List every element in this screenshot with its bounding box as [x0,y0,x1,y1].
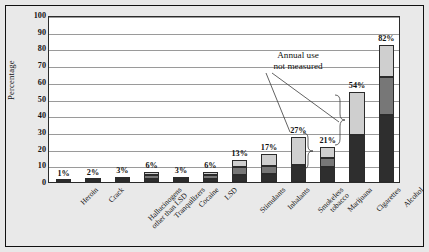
bar-segment [173,177,188,179]
bar-segment [232,175,247,183]
bar[interactable]: 17% [261,16,276,182]
chart-figure: Percentage Tenth-graders 1%2%3%6%3%6%13%… [0,0,429,252]
bar-segment [261,154,276,167]
bar-segment [232,160,247,167]
bar-segment [379,115,394,182]
annotation-line-1: Annual use [246,50,350,61]
bar-segment [291,165,306,182]
y-axis-tick: 70 [6,62,46,70]
y-axis-tick: 20 [6,145,46,153]
y-axis-tick: 60 [6,79,46,87]
bar[interactable]: 54% [349,16,364,182]
bar[interactable]: 13% [232,16,247,182]
bar-value-label: 27% [290,126,306,135]
y-axis-tick: 10 [6,162,46,170]
bar[interactable]: 2% [85,16,100,182]
bar[interactable]: 27% [291,16,306,182]
bar-value-label: 3% [175,166,187,175]
bar[interactable]: 6% [203,16,218,182]
bar-segment [320,158,335,167]
gridline [49,84,399,85]
plot-wrapper: Tenth-graders 1%2%3%6%3%6%13%17%27%21%54… [48,16,400,183]
gridline [49,17,399,18]
y-axis-tick: 40 [6,112,46,120]
bar-value-label: 3% [116,166,128,175]
bar-value-label: 2% [87,168,99,177]
bar-segment [232,167,247,175]
bar-segment [203,172,218,175]
bar-segment [144,179,159,182]
bar[interactable]: 21% [320,16,335,182]
bar-segment [291,137,306,165]
plot-area: 1%2%3%6%3%6%13%17%27%21%54%82% [48,16,400,183]
bar-segment [261,174,276,182]
bar-value-label: 1% [58,169,70,178]
annotation-annual-use-not-measured: Annual use not measured [246,50,350,72]
bar[interactable]: 6% [144,16,159,182]
gridline [49,101,399,102]
bar-value-label: 13% [231,149,247,158]
gridline [49,34,399,35]
bar[interactable]: 3% [173,16,188,182]
bar-segment [320,147,335,158]
bar-value-label: 54% [349,81,365,90]
y-axis-tick: 90 [6,29,46,37]
bar[interactable]: 3% [115,16,130,182]
bar[interactable]: 82% [379,16,394,182]
bar-segment [379,77,394,115]
y-axis-tick: 80 [6,45,46,53]
bar-segment [349,92,364,135]
bar-segment [85,178,100,180]
gridline [49,167,399,168]
bar-segment [349,135,364,182]
bar-value-label: 6% [204,161,216,170]
gridline [49,134,399,135]
bar-segment [56,179,71,181]
bar-value-label: 82% [378,34,394,43]
bar-segment [203,179,218,182]
bar-segment [144,175,159,178]
y-axis-tick: 30 [6,129,46,137]
bar-value-label: 17% [261,143,277,152]
y-axis-tick: 0 [6,179,46,187]
bar-value-label: 6% [146,161,158,170]
gridline [49,151,399,152]
bar-segment [203,175,218,179]
y-axis-tick: 50 [6,95,46,103]
bar-value-label: 21% [319,136,335,145]
bar-segment [261,166,276,174]
y-axis-tick: 100 [6,12,46,20]
gridline [49,117,399,118]
bar-segment [320,167,335,182]
bar-segment [144,172,159,175]
annotation-line-2: not measured [246,61,350,72]
bar-segment [379,45,394,77]
bar[interactable]: 1% [56,16,71,182]
bar-segment [115,177,130,179]
